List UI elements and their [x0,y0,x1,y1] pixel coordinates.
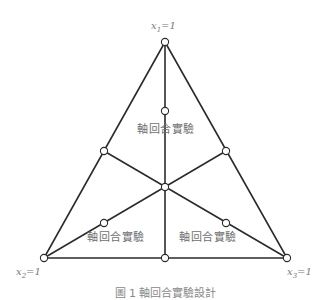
eq-x3: =1 [297,266,312,277]
figure-caption: 圖 1 軸回合實驗設計 [0,284,331,300]
point-axial-right [222,219,229,226]
vertex-label-x2: x2=1 [16,266,41,280]
vertex-label-x1: x1=1 [151,20,176,34]
eq-x2: =1 [26,266,41,277]
vertex-label-x3: x3=1 [287,266,312,280]
point-vertex-top [161,38,168,45]
point-vertex-left [40,254,47,261]
region-label-left: 軸回合實驗 [87,228,145,244]
eq-x1: =1 [161,20,176,31]
point-edge-mid-left [100,147,107,154]
point-vertex-right [283,254,290,261]
point-edge-mid-right [222,147,229,154]
point-axial-left [100,219,107,226]
region-label-top: 軸回合實驗 [137,120,195,136]
point-centroid [161,183,168,190]
region-label-right: 軸回合實驗 [179,228,237,244]
point-edge-mid-bottom [161,254,168,261]
point-axial-top [161,107,168,114]
